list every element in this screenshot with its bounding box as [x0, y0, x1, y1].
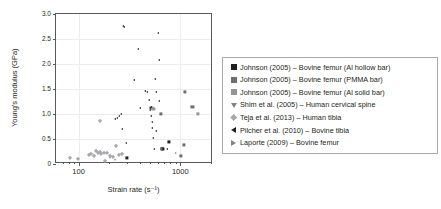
y-axis-title: Young's modulus (GPa) [8, 13, 20, 163]
y-axis-tick-label: 2.0 [42, 61, 51, 68]
x-axis-minor-tick [176, 162, 177, 164]
y-axis-tick [53, 114, 56, 115]
data-point [160, 147, 163, 150]
gridline-vertical [180, 14, 181, 162]
legend-item-label: Shim et al. (2005) – Human cervical spin… [240, 101, 375, 108]
data-point [98, 118, 103, 123]
data-point [121, 128, 123, 130]
data-point [137, 48, 139, 50]
x-axis-minor-tick [74, 162, 75, 164]
data-point [109, 157, 111, 159]
legend-marker-triangle-down-icon [227, 103, 240, 108]
x-axis-tick-label: 100 [72, 168, 85, 176]
data-point [98, 150, 103, 155]
legend-swatch [231, 127, 236, 133]
x-axis-title-text: Strain rate (s⁻¹) [108, 185, 160, 194]
data-point [153, 148, 155, 150]
legend-item-label: Johnson (2005) – Bovine femur (PMMA bar) [240, 76, 383, 83]
data-point [103, 158, 108, 163]
chart-legend: Johnson (2005) – Bovine femur (Al hollow… [222, 57, 438, 154]
legend-swatch [231, 77, 237, 83]
data-point [151, 121, 153, 123]
x-axis-minor-tick [109, 162, 110, 164]
data-point [94, 149, 99, 154]
data-point [87, 153, 92, 158]
x-axis-major-tick [180, 162, 181, 166]
data-point [99, 152, 104, 157]
data-point [113, 144, 118, 149]
legend-item[interactable]: Pilcher et al. (2010) – Bovine tibia [227, 124, 433, 137]
legend-item-label: Teja et al. (2013) – Human tibia [240, 114, 341, 121]
data-point [111, 155, 116, 160]
legend-item[interactable]: Teja et al. (2013) – Human tibia [227, 111, 433, 124]
x-axis-minor-tick [63, 162, 64, 164]
data-point [155, 130, 157, 132]
data-point [152, 107, 155, 110]
gridline-vertical [79, 14, 80, 162]
data-point [108, 153, 113, 158]
legend-item[interactable]: Johnson (2005) – Bovine femur (Al solid … [227, 86, 433, 99]
x-axis-minor-tick [170, 162, 171, 164]
data-point [161, 148, 163, 150]
legend-item-label: Pilcher et al. (2010) – Bovine tibia [240, 127, 349, 134]
x-axis-minor-tick [69, 162, 70, 164]
data-point [158, 100, 160, 102]
y-axis-title-text: Young's modulus (GPa) [10, 49, 18, 128]
x-axis-title: Strain rate (s⁻¹) [55, 186, 212, 194]
data-point [122, 25, 124, 27]
data-point [162, 147, 165, 150]
y-axis-tick [53, 14, 56, 15]
data-point [150, 106, 152, 108]
legend-item[interactable]: Shim et al. (2005) – Human cervical spin… [227, 99, 433, 112]
x-axis-major-tick [79, 162, 80, 166]
y-axis-tick [53, 89, 56, 90]
data-point [125, 156, 128, 159]
legend-marker-diamond-icon [227, 115, 240, 120]
data-point [114, 159, 116, 161]
x-axis-minor-tick [158, 162, 159, 164]
data-point [150, 106, 153, 109]
data-point [123, 26, 125, 28]
legend-swatch [230, 114, 238, 122]
data-point [105, 151, 110, 156]
data-point [146, 91, 148, 93]
data-point [148, 99, 150, 101]
y-axis-tick-label: 3.0 [42, 11, 51, 18]
x-axis-minor-tick [211, 162, 212, 164]
y-axis-tick [53, 64, 56, 65]
legend-swatch [231, 64, 237, 70]
legend-marker-triangle-right-icon [227, 140, 240, 146]
data-point [96, 151, 101, 156]
legend-marker-square-icon [227, 89, 240, 95]
legend-item[interactable]: Laporte (2009) – Bovine femur [227, 137, 433, 150]
data-point [191, 105, 194, 108]
data-point [175, 152, 177, 154]
data-point [117, 153, 122, 158]
data-point [101, 150, 106, 155]
data-point [116, 117, 118, 119]
legend-marker-triangle-left-icon [227, 127, 240, 133]
x-axis-minor-tick [164, 162, 165, 164]
legend-item[interactable]: Johnson (2005) – Bovine femur (PMMA bar) [227, 74, 433, 87]
data-point [89, 151, 94, 156]
data-point [68, 156, 73, 161]
data-point [133, 79, 135, 81]
data-point [182, 143, 185, 146]
data-point [166, 148, 168, 150]
plot-area: 00.51.01.52.02.53.0 1001000 [55, 13, 212, 163]
data-point [154, 78, 156, 80]
legend-item[interactable]: Johnson (2005) – Bovine femur (Al hollow… [227, 61, 433, 74]
data-point [120, 152, 125, 157]
data-point [157, 32, 159, 34]
x-axis-minor-tick [150, 162, 151, 164]
data-point [149, 107, 151, 109]
y-axis-tick-label: 1.0 [42, 111, 51, 118]
legend-marker-square-icon [227, 64, 240, 70]
y-axis-tick [53, 139, 56, 140]
y-axis-tick-label: 1.5 [42, 86, 51, 93]
data-point [91, 153, 96, 158]
data-point [118, 154, 120, 156]
y-axis-tick-label: 0 [47, 161, 51, 168]
legend-swatch [231, 89, 237, 95]
legend-swatch [231, 103, 237, 108]
